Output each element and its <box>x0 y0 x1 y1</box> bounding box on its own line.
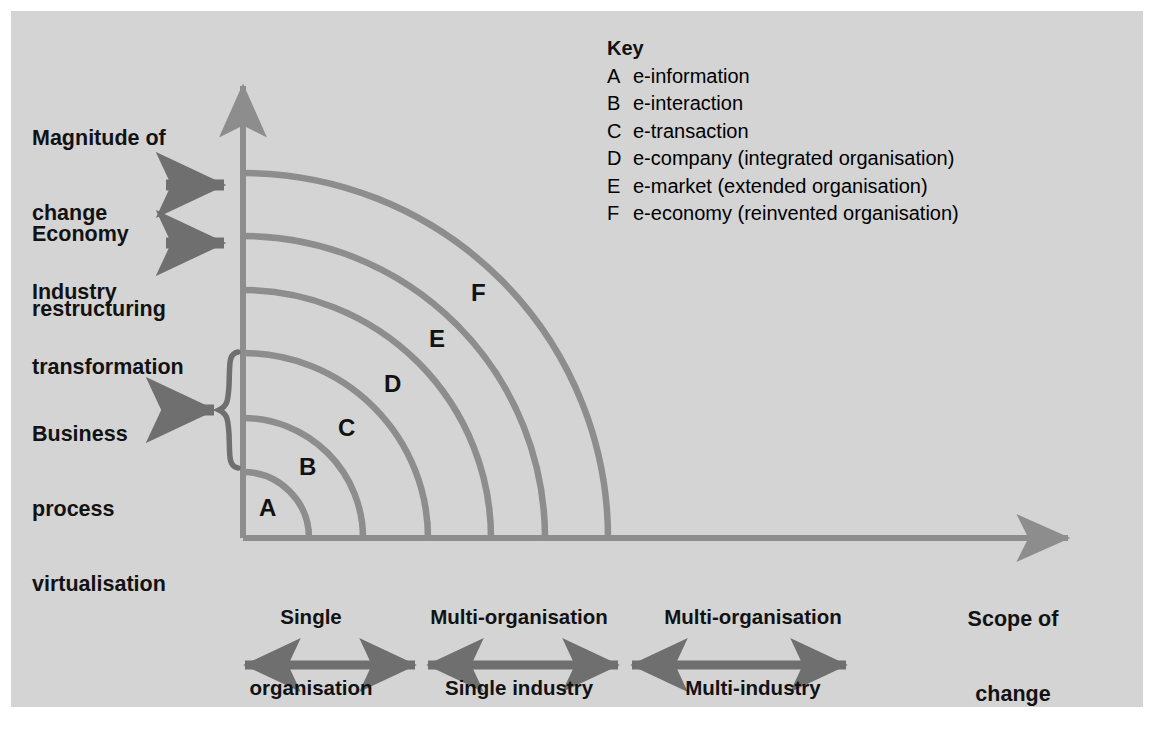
key-item-b: B e-interaction <box>607 92 959 120</box>
arc-label-a: A <box>259 494 276 522</box>
key-item-a-text: e-information <box>633 65 750 88</box>
key-item-c: C e-transaction <box>607 120 959 148</box>
key-item-e-letter: E <box>607 175 633 198</box>
key-item-b-letter: B <box>607 92 633 115</box>
arc-label-f: F <box>471 279 486 307</box>
brace-bracket <box>219 352 238 468</box>
figure-root: Magnitude of change Economy restructurin… <box>0 0 1154 729</box>
arc-label-d: D <box>384 370 401 398</box>
x-category-single-organisation-line2: organisation <box>238 676 384 700</box>
x-category-multi-org-multi-industry-line1: Multi-organisation <box>637 605 869 629</box>
x-axis-title-line1: Scope of <box>943 607 1083 632</box>
x-category-single-organisation-line1: Single <box>238 605 384 629</box>
key-item-f: F e-economy (reinvented organisation) <box>607 202 959 230</box>
x-category-multi-org-multi-industry: Multi-organisation Multi-industry <box>637 557 869 729</box>
x-category-single-organisation: Single organisation <box>238 557 384 729</box>
side-label-business-process-virtualisation-line3: virtualisation <box>32 572 166 597</box>
key-item-d-letter: D <box>607 147 633 170</box>
arc-label-e: E <box>429 325 445 353</box>
side-label-business-process-virtualisation: Business process virtualisation <box>32 372 166 646</box>
side-label-industry-transformation-line1: Industry <box>32 280 184 305</box>
x-axis-title-line2: change <box>943 682 1083 707</box>
key-item-d-text: e-company (integrated organisation) <box>633 147 954 170</box>
arc-label-b: B <box>299 453 316 481</box>
key-heading: Key <box>607 37 959 65</box>
x-category-multi-org-multi-industry-line2: Multi-industry <box>637 676 869 700</box>
key-item-d: D e-company (integrated organisation) <box>607 147 959 175</box>
key-item-f-letter: F <box>607 202 633 225</box>
key-legend: Key A e-information B e-interaction C e-… <box>607 37 959 230</box>
key-item-a-letter: A <box>607 65 633 88</box>
x-category-multi-org-single-industry-line2: Single industry <box>403 676 635 700</box>
y-axis-title-line1: Magnitude of <box>32 126 166 151</box>
side-label-business-process-virtualisation-line2: process <box>32 497 166 522</box>
key-item-c-text: e-transaction <box>633 120 749 143</box>
key-item-b-text: e-interaction <box>633 92 743 115</box>
key-item-a: A e-information <box>607 65 959 93</box>
arc-f <box>243 173 608 538</box>
x-category-multi-org-single-industry: Multi-organisation Single industry <box>403 557 635 729</box>
x-axis-title: Scope of change <box>943 557 1083 729</box>
arc-label-c: C <box>338 414 355 442</box>
key-item-e: E e-market (extended organisation) <box>607 175 959 203</box>
arc-d <box>243 290 491 538</box>
x-category-multi-org-single-industry-line1: Multi-organisation <box>403 605 635 629</box>
key-item-e-text: e-market (extended organisation) <box>633 175 928 198</box>
key-item-c-letter: C <box>607 120 633 143</box>
key-item-f-text: e-economy (reinvented organisation) <box>633 202 959 225</box>
side-label-business-process-virtualisation-line1: Business <box>32 422 166 447</box>
